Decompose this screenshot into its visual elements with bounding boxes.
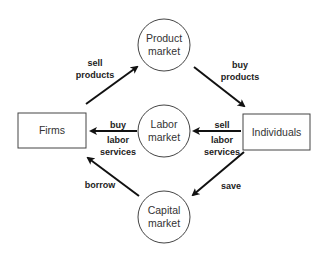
buy-products-label-line1: buy	[232, 60, 248, 70]
capital-market-node: Capital market	[138, 191, 190, 243]
save-label: save	[221, 181, 241, 191]
firms-node: Firms	[18, 113, 86, 148]
sell-labor-label-line1: sell	[214, 120, 229, 130]
capital-market-label-line1: Capital	[148, 204, 181, 216]
labor-market-node: Labor market	[138, 105, 190, 157]
sell-labor-label-line2: labor	[211, 135, 234, 145]
buy-products-label-line2: products	[221, 72, 260, 82]
individuals-node: Individuals	[243, 114, 310, 150]
borrow-label: borrow	[85, 180, 116, 190]
individuals-label: Individuals	[252, 126, 302, 138]
product-market-label-line1: Product	[146, 32, 182, 44]
product-market-label-line2: market	[148, 45, 180, 57]
buy-labor-label-line2: labor	[107, 135, 130, 145]
capital-market-label-line2: market	[148, 217, 180, 229]
product-market-node: Product market	[138, 19, 190, 71]
buy-labor-label-line1: buy	[110, 120, 126, 130]
sell-products-label-line1: sell	[87, 58, 102, 68]
circular-flow-diagram: Firms Individuals Product market Labor m…	[0, 0, 327, 257]
borrow-arrow	[88, 158, 139, 196]
sell-products-label-line2: products	[76, 70, 115, 80]
labor-market-label-line1: Labor	[151, 118, 178, 130]
sell-labor-label-line3: services	[204, 147, 240, 157]
buy-labor-label-line3: services	[100, 147, 136, 157]
firms-label: Firms	[39, 124, 65, 136]
labor-market-label-line2: market	[148, 131, 180, 143]
